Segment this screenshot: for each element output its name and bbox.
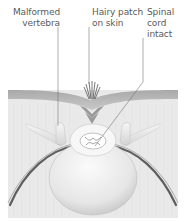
spinal-cord xyxy=(80,133,106,149)
anatomy-illustration xyxy=(0,0,186,222)
